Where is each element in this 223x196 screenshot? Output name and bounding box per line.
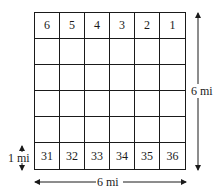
width-label: 6 mi — [97, 176, 119, 188]
dimension-arrows — [0, 0, 223, 196]
height-label: 6 mi — [191, 85, 213, 97]
section-size-label: 1 mi — [8, 152, 30, 164]
